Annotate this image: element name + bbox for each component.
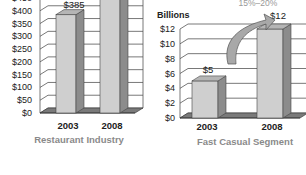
gridline-diagonal (40, 70, 48, 75)
data-label: $5 (203, 64, 214, 75)
x-tick-label: 2008 (261, 121, 282, 132)
gridline-diagonal (180, 54, 188, 59)
chart-subtitle: Restaurant Industry (34, 134, 124, 145)
bar-front (192, 81, 218, 118)
y-tick-label: $0 (22, 108, 32, 118)
bar-front (100, 0, 120, 113)
y-tick-label: $50 (17, 95, 32, 105)
y-tick-label: $450 (12, 0, 32, 3)
y-tick-label: $10 (160, 39, 175, 49)
x-tick-label: 2003 (57, 120, 78, 131)
y-tick-label: $250 (12, 44, 32, 54)
bar-side (283, 24, 291, 118)
gridline-diagonal (40, 31, 48, 36)
y-tick-label: $6 (165, 69, 175, 79)
gridline-diagonal (180, 39, 188, 44)
y-tick-label: $12 (160, 24, 175, 34)
gridline-diagonal (40, 44, 48, 49)
gridline-diagonal (40, 57, 48, 62)
chart-subtitle: Fast Casual Segment (197, 136, 294, 147)
gridline-diagonal (180, 69, 188, 74)
bar-front (56, 15, 76, 113)
y-tick-label: $100 (12, 82, 32, 92)
fast-casual-chart: $0$2$4$6$8$10$122003$52008$12Fast Casual… (157, 0, 306, 147)
data-label: $385 (63, 0, 84, 10)
gridline-diagonal (40, 19, 48, 24)
gridline-diagonal (40, 82, 48, 87)
bar-side (218, 76, 226, 118)
y-tick-label: $300 (12, 31, 32, 41)
y-axis-unit-label: Billions (157, 10, 190, 20)
y-tick-label: $400 (12, 6, 32, 16)
bar-side (76, 10, 84, 113)
gridline-diagonal (40, 6, 48, 11)
y-tick-label: $350 (12, 19, 32, 29)
y-tick-label: $2 (165, 98, 175, 108)
gridline-diagonal (180, 83, 188, 88)
growth-annotation: 15%–20% (239, 0, 278, 8)
gridline-diagonal (40, 95, 48, 100)
gridline-diagonal (180, 98, 188, 103)
bar-front (257, 29, 283, 118)
y-tick-label: $8 (165, 54, 175, 64)
y-tick-label: $4 (165, 83, 175, 93)
y-tick-label: $200 (12, 57, 32, 67)
restaurant-industry-chart: $0$50$100$150$200$250$300$350$400$450200… (12, 0, 143, 145)
x-tick-label: 2003 (196, 121, 217, 132)
bar-side (120, 0, 128, 113)
chart-canvas: $0$50$100$150$200$250$300$350$400$450200… (0, 0, 306, 175)
y-tick-label: $0 (165, 113, 175, 123)
y-tick-label: $150 (12, 70, 32, 80)
chart-floor (40, 108, 143, 113)
gridline-diagonal (180, 24, 188, 29)
x-tick-label: 2008 (101, 120, 122, 131)
